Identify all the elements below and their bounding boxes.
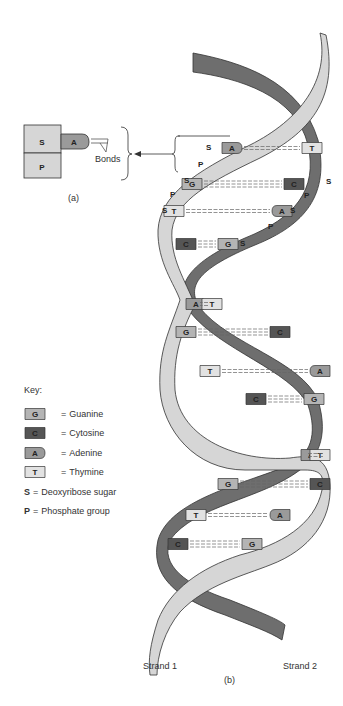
key-equals: = xyxy=(33,487,38,497)
base-letter: C xyxy=(175,540,181,549)
key-equals: = xyxy=(61,409,66,419)
key-item: T=Thymine xyxy=(24,463,116,483)
key-label: Thymine xyxy=(69,467,104,477)
sugar-label: S xyxy=(162,206,168,215)
key-symbol-adenine: A xyxy=(24,446,58,460)
base-guanine: G xyxy=(304,394,324,405)
key-item: P=Phosphate group xyxy=(24,502,116,522)
base-label: A xyxy=(71,138,77,147)
strand-2-label: Strand 2 xyxy=(283,661,317,671)
base-thymine: T xyxy=(202,299,222,310)
base-letter: A xyxy=(229,144,235,153)
base-pair: CG xyxy=(168,539,262,550)
base-pair: AT xyxy=(301,450,330,461)
brace-b xyxy=(172,136,180,172)
base-cytosine: C xyxy=(284,179,304,190)
sugar-label: S xyxy=(326,177,332,186)
key-label: Deoxyribose sugar xyxy=(41,487,116,497)
base-pair: CG xyxy=(176,239,238,250)
base-letter: C xyxy=(277,328,283,337)
base-adenine: A xyxy=(270,510,290,521)
key-symbol-cytosine: C xyxy=(24,426,58,440)
base-letter: T xyxy=(33,468,38,477)
key-symbol-sugar: S xyxy=(24,487,30,497)
base-pair: CG xyxy=(246,394,324,405)
base-letter: G xyxy=(225,240,231,249)
strand-1-label: Strand 1 xyxy=(143,661,177,671)
phosphate-label: P xyxy=(39,163,45,172)
key-equals: = xyxy=(61,428,66,438)
key-label: Phosphate group xyxy=(41,506,110,516)
base-cytosine: C xyxy=(310,479,330,490)
key-equals: = xyxy=(61,448,66,458)
base-pair: GC xyxy=(182,179,304,190)
key-item: G=Guanine xyxy=(24,404,116,424)
key-item: C=Cytosine xyxy=(24,424,116,444)
key-equals: = xyxy=(61,467,66,477)
brace-a xyxy=(121,127,132,180)
base-guanine: G xyxy=(218,239,238,250)
base-guanine: G xyxy=(218,479,238,490)
base-thymine: T xyxy=(302,143,322,154)
base-letter: T xyxy=(318,451,323,460)
phosphate-label: P xyxy=(198,160,204,169)
base-cytosine: C xyxy=(176,239,196,250)
key-item: S=Deoxyribose sugar xyxy=(24,482,116,502)
key-label: Guanine xyxy=(69,409,103,419)
base-letter: A xyxy=(193,300,199,309)
key-item: A=Adenine xyxy=(24,443,116,463)
base-letter: G xyxy=(249,540,255,549)
base-thymine: T xyxy=(310,450,330,461)
base-cytosine: C xyxy=(246,394,266,405)
base-pair: TA xyxy=(164,206,292,217)
key-symbol-guanine: G xyxy=(24,407,58,421)
base-guanine: G xyxy=(25,408,45,419)
base-cytosine: C xyxy=(270,327,290,338)
phosphate-label: P xyxy=(170,190,176,199)
panel-a-caption: (a) xyxy=(68,193,79,203)
base-guanine: G xyxy=(242,539,262,550)
base-letter: G xyxy=(32,410,38,419)
key-label: Cytosine xyxy=(69,428,104,438)
base-letter: C xyxy=(291,180,297,189)
base-letter: G xyxy=(311,395,317,404)
base-thymine: T xyxy=(200,366,220,377)
key-legend: Key: G=GuanineC=CytosineA=AdenineT=Thymi… xyxy=(24,385,116,521)
base-letter: A xyxy=(32,449,38,458)
base-letter: T xyxy=(194,511,199,520)
base-letter: A xyxy=(277,511,283,520)
sugar-label: S xyxy=(206,143,212,152)
key-equals: = xyxy=(33,506,38,516)
key-title: Key: xyxy=(24,385,116,395)
base-pair: AT xyxy=(186,299,222,310)
key-symbol-thymine: T xyxy=(24,465,58,479)
base-thymine: T xyxy=(186,510,206,521)
base-letter: G xyxy=(183,328,189,337)
base-letter: C xyxy=(317,480,323,489)
dna-diagram: S P A Bonds (a) ATGCTACGATGCTACGATGCTACG… xyxy=(0,0,343,706)
base-letter: A xyxy=(279,207,285,216)
base-letter: C xyxy=(183,240,189,249)
sugar-label: S xyxy=(290,206,296,215)
strand-2-dark xyxy=(157,53,323,640)
base-letter: A xyxy=(317,367,323,376)
base-adenine: A xyxy=(272,206,292,217)
base-cytosine: C xyxy=(25,428,45,439)
sugar-label: S xyxy=(184,176,190,185)
phosphate-label: P xyxy=(268,222,274,231)
base-adenine: A xyxy=(25,447,45,458)
base-letter: C xyxy=(32,429,38,438)
sugar-label: S xyxy=(240,239,246,248)
sugar-label: S xyxy=(39,138,45,147)
bonds-label: Bonds xyxy=(95,154,121,164)
base-guanine: G xyxy=(176,327,196,338)
base-pair: TA xyxy=(186,510,290,521)
base-letter: T xyxy=(310,144,315,153)
phosphate-label: P xyxy=(304,191,310,200)
base-letter: T xyxy=(208,367,213,376)
base-letter: T xyxy=(172,207,177,216)
base-letter: G xyxy=(189,180,195,189)
base-thymine: T xyxy=(25,467,45,478)
bonds-lines xyxy=(91,139,108,152)
base-adenine: A xyxy=(222,143,242,154)
